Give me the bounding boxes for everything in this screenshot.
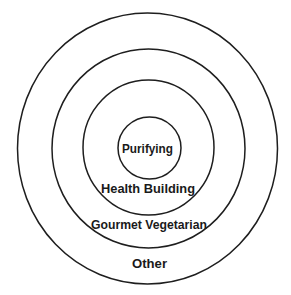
label-other: Other	[132, 256, 168, 271]
label-health-building: Health Building	[101, 181, 195, 196]
concentric-diet-diagram: Purifying Health Building Gourmet Vegeta…	[0, 0, 291, 295]
label-purifying: Purifying	[122, 141, 173, 156]
label-gourmet-vegetarian: Gourmet Vegetarian	[91, 217, 207, 232]
